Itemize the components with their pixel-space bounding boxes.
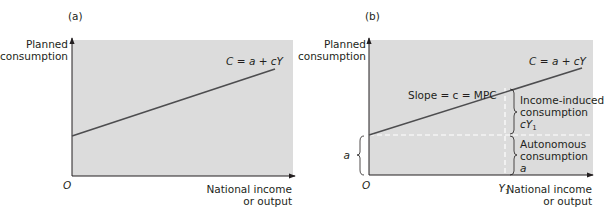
panel-b-autonomous-2: consumption	[520, 150, 588, 162]
panel-b-line-label: C = a + cY	[529, 55, 587, 67]
diagram-canvas: (a) Planned consumption O National incom…	[0, 0, 605, 211]
panel-b-autonomous-1: Autonomous	[520, 138, 586, 150]
panel-b-autonomous-3: a	[520, 162, 526, 174]
panel-b-label: (b)	[365, 10, 380, 22]
panel-a-origin: O	[63, 179, 71, 191]
panel-a-y-label-2: consumption	[0, 50, 68, 62]
panel-b-y-label-2: consumption	[298, 50, 366, 62]
panel-a: (a) Planned consumption O National incom…	[0, 10, 295, 207]
panel-a-x-label-2: or output	[243, 195, 292, 207]
panel-b-slope-label: Slope = c = MPC	[408, 89, 497, 101]
panel-a-label: (a)	[68, 10, 83, 22]
panel-b-x-label-2: or output	[543, 195, 592, 207]
panel-a-line-label: C = a + cY	[226, 55, 284, 67]
panel-b-x-label-1: National income	[506, 183, 592, 195]
panel-b-y-label-1: Planned	[324, 38, 366, 50]
panel-b: (b) Planned consumption O a C = a + cY S…	[298, 10, 604, 207]
panel-a-x-label-1: National income	[206, 183, 292, 195]
panel-b-intercept-brace	[357, 136, 364, 175]
panel-b-induced-2: consumption	[520, 106, 588, 118]
panel-a-y-label-1: Planned	[26, 38, 68, 50]
panel-b-origin: O	[362, 179, 370, 191]
panel-b-induced-1: Income-induced	[520, 94, 604, 106]
panel-b-intercept-label: a	[344, 149, 350, 161]
